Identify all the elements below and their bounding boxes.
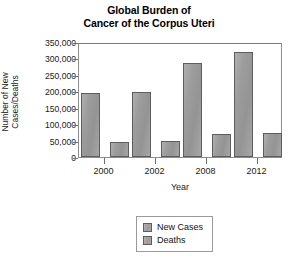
chart-title-line-2: Cancer of the Corpus Uteri — [0, 17, 298, 30]
y-axis-tick-label: 200,000 — [20, 88, 76, 97]
bar-new-cases-2002 — [132, 92, 151, 157]
y-axis-tick-label: 50,000 — [20, 137, 76, 146]
x-axis-tick-label: 2002 — [128, 166, 182, 177]
x-axis-tick-label: 2000 — [77, 166, 131, 177]
y-axis-tick-label: 300,000 — [20, 55, 76, 64]
bar-deaths-2002 — [161, 141, 180, 157]
bar-new-cases-2012 — [234, 52, 253, 157]
y-axis-tick-label: 350,000 — [20, 39, 76, 48]
legend-swatch-icon — [143, 236, 152, 245]
chart-title-line-1: Global Burden of — [0, 4, 298, 17]
chart-legend: New CasesDeaths — [136, 216, 213, 252]
plot-area — [78, 43, 282, 158]
x-axis-title: Year — [78, 182, 282, 192]
x-axis-tick-label: 2008 — [179, 166, 233, 177]
bar-chart: Global Burden of Cancer of the Corpus Ut… — [0, 0, 298, 270]
y-axis-tick-mark — [73, 158, 78, 159]
x-axis-tick-mark — [104, 158, 105, 164]
legend-label: New Cases — [157, 222, 203, 233]
legend-swatch-icon — [143, 223, 152, 232]
y-axis-tick-label: 150,000 — [20, 104, 76, 113]
chart-title: Global Burden of Cancer of the Corpus Ut… — [0, 4, 298, 29]
y-axis-title-line-1: Number of New — [0, 72, 10, 131]
legend-item: New Cases — [143, 221, 203, 234]
x-axis-tick-mark — [206, 158, 207, 164]
y-axis-title-line-2: Cases/Deaths — [10, 72, 20, 131]
bar-deaths-2000 — [110, 142, 129, 157]
bar-deaths-2008 — [212, 134, 231, 157]
y-axis-title: Number of New Cases/Deaths — [0, 42, 21, 162]
x-axis-tick-mark — [257, 158, 258, 164]
legend-label: Deaths — [157, 235, 186, 246]
y-axis-tick-label: 100,000 — [20, 121, 76, 130]
bar-new-cases-2008 — [183, 63, 202, 157]
x-axis-tick-mark — [155, 158, 156, 164]
y-axis-tick-label: 250,000 — [20, 72, 76, 81]
bar-new-cases-2000 — [81, 93, 100, 157]
y-axis-tick-label: 0 — [20, 154, 76, 163]
bar-deaths-2012 — [263, 133, 282, 157]
x-axis-tick-label: 2012 — [230, 166, 284, 177]
legend-item: Deaths — [143, 234, 203, 247]
